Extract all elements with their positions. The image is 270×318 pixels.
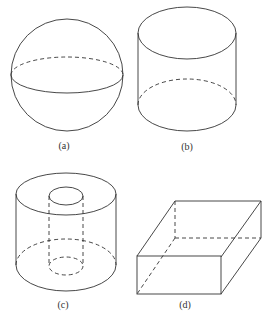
cylinder-bottom-front <box>138 105 236 131</box>
sphere-equator-front <box>11 75 123 93</box>
figure-cylinder: (b) <box>138 7 236 153</box>
figure-box: (d) <box>137 201 261 311</box>
label-d: (d) <box>179 299 191 311</box>
label-c: (c) <box>57 299 68 311</box>
label-b: (b) <box>181 141 193 153</box>
outer-bottom-front <box>16 265 116 291</box>
cylinder-top-ellipse <box>138 7 236 59</box>
figure-hollow-cylinder: (c) <box>16 173 116 311</box>
label-a: (a) <box>58 140 69 152</box>
inner-top-ellipse <box>49 187 83 205</box>
box-hidden-left-bottom-edge <box>137 238 175 294</box>
sphere-outline <box>11 19 123 131</box>
solids-diagram: (a) (b) (c) (d) <box>0 0 270 318</box>
outer-bottom-back <box>16 239 116 265</box>
inner-bottom-ellipse <box>49 257 83 275</box>
box-bottom-right-edge <box>221 238 261 294</box>
cylinder-bottom-back <box>138 79 236 105</box>
outer-top-ellipse <box>16 173 116 215</box>
figure-sphere: (a) <box>11 19 123 152</box>
box-top-face-edges <box>137 201 261 257</box>
sphere-equator-back <box>11 57 123 75</box>
